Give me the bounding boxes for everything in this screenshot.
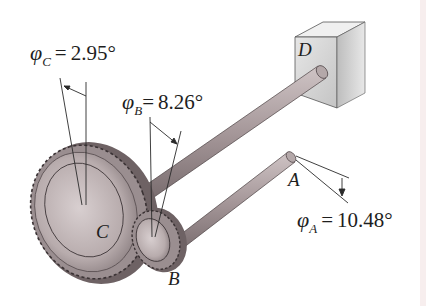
phi-a-subscript: A [309, 221, 317, 236]
label-phi-a: φA = 10.48° [297, 207, 393, 233]
label-point-a: A [288, 169, 300, 191]
phi-c-value: 2.95° [71, 41, 116, 65]
gear-shaft-diagram: φC = 2.95° φB= 8.26° φA = 10.48° A B C D [0, 0, 426, 306]
equals-sign: = [55, 41, 67, 65]
label-phi-c: φC = 2.95° [30, 40, 116, 66]
equals-sign: = [142, 90, 154, 114]
phi-b-subscript: B [134, 103, 142, 118]
phi-b-value: 8.26° [158, 90, 203, 114]
phi-c-subscript: C [42, 54, 51, 69]
label-phi-b: φB= 8.26° [122, 89, 203, 115]
phi-a-value: 10.48° [337, 208, 393, 232]
equals-sign: = [321, 208, 333, 232]
phi-symbol: φ [297, 207, 309, 232]
page-edge-strip [420, 0, 426, 306]
label-point-c: C [96, 221, 109, 243]
label-point-d: D [298, 39, 312, 61]
label-point-b: B [168, 268, 180, 290]
angle-indicator-a [296, 156, 349, 203]
phi-symbol: φ [122, 89, 134, 114]
phi-symbol: φ [30, 40, 42, 65]
fixed-support-d [295, 22, 365, 108]
